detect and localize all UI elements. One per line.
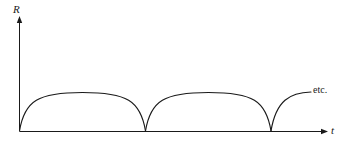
x-axis-arrowhead-icon [321, 129, 328, 134]
y-axis-arrowhead-icon [17, 16, 22, 23]
sine-arch-3-partial [271, 92, 311, 131]
sine-arch-1 [20, 93, 146, 132]
sine-arch-2 [146, 93, 272, 132]
x-axis-label: t [331, 125, 334, 136]
continuation-note-label: etc. [313, 85, 327, 95]
y-axis-label: R [13, 4, 20, 15]
rectified-sine-wave-figure [0, 0, 346, 143]
